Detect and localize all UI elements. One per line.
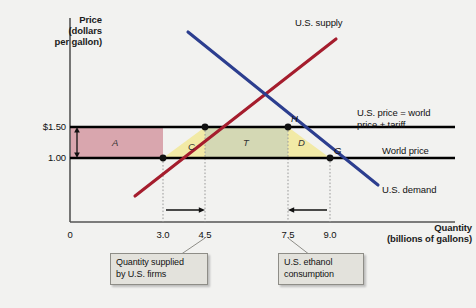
- callout-consumption-line1: U.S. ethanol: [284, 257, 358, 269]
- region-label-d: D: [298, 137, 305, 148]
- point-label-h: H: [291, 113, 298, 124]
- callout-supplied-line1: Quantity supplied: [116, 257, 202, 269]
- point-c-dot: [160, 155, 167, 162]
- x-tick-label-45: 4.5: [193, 229, 217, 240]
- x-tick-label-0: 0: [60, 229, 80, 240]
- y-axis-title: Price (dollars per gallon): [24, 14, 102, 47]
- x-axis-title: Quantity (billions of gallons): [352, 222, 472, 244]
- chart-figure: Price (dollars per gallon) Quantity (bil…: [0, 0, 476, 308]
- callout-ethanol-consumption: U.S. ethanol consumption: [278, 253, 364, 285]
- region-c-shape: [163, 127, 205, 158]
- y-axis-title-line3: per gallon): [24, 36, 102, 47]
- x-tick-label-90: 9.0: [318, 229, 342, 240]
- us-price-line-label: U.S. price = world price + tariff: [357, 107, 430, 130]
- x-axis-title-line1: Quantity: [352, 222, 472, 233]
- region-label-t: T: [243, 137, 249, 148]
- point-h-dot: [285, 124, 292, 131]
- point-q45-dot: [202, 124, 209, 131]
- callout-supplied-line2: by U.S. firms: [116, 269, 202, 281]
- world-price-line-label: World price: [382, 145, 429, 157]
- region-label-c: C: [188, 141, 195, 152]
- arrow-ethanol-consumption: [288, 207, 327, 212]
- x-axis-title-line2: (billions of gallons): [352, 233, 472, 244]
- us-demand-curve: [188, 32, 378, 185]
- callout-consumption-line2: consumption: [284, 269, 358, 281]
- us-price-line-label-line2: price + tariff: [357, 119, 430, 131]
- y-tick-label-150: $1.50: [14, 121, 66, 132]
- x-tick-label-75: 7.5: [276, 229, 300, 240]
- x-tick-label-30: 3.0: [151, 229, 175, 240]
- region-label-a: A: [112, 137, 118, 148]
- arrow-quantity-supplied: [166, 207, 205, 212]
- point-label-g: G: [334, 145, 341, 156]
- supply-curve-label: U.S. supply: [295, 17, 342, 29]
- callout-quantity-supplied: Quantity supplied by U.S. firms: [110, 253, 208, 285]
- point-g-dot: [327, 155, 334, 162]
- demand-curve-label: U.S. demand: [382, 184, 436, 196]
- y-axis-title-line1: Price: [24, 14, 102, 25]
- us-price-line-label-line1: U.S. price = world: [357, 107, 430, 119]
- y-axis-title-line2: (dollars: [24, 25, 102, 36]
- us-supply-curve: [135, 39, 336, 196]
- y-tick-label-100: 1.00: [14, 152, 66, 163]
